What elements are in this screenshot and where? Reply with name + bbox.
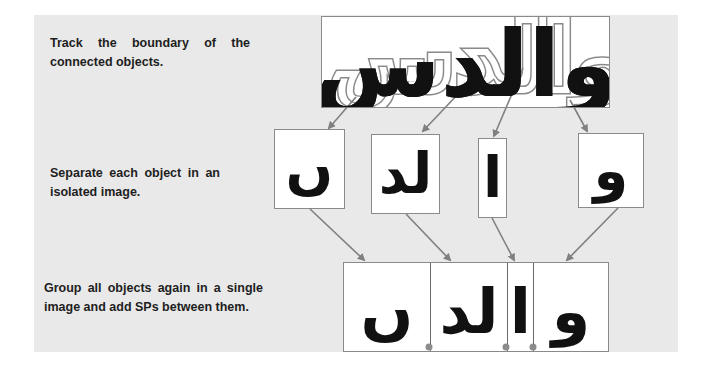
object-glyph: لد: [379, 146, 432, 202]
object-glyph: ا: [483, 150, 502, 206]
step-caption-group: Group all objects again in a single imag…: [44, 279, 263, 317]
segment-lam-dal: لد: [431, 263, 507, 351]
segment-glyph: و: [552, 281, 591, 343]
step-caption-track: Track the boundary of the connected obje…: [50, 34, 250, 72]
segment-seen: ں: [344, 263, 430, 351]
segment-waw: و: [534, 263, 608, 351]
isolated-object-seen: ں: [274, 129, 345, 209]
segment-alif: ا: [508, 263, 533, 351]
segment-glyph: لد: [439, 281, 498, 343]
isolated-object-waw: و: [578, 133, 644, 208]
source-word-glyphs: والدس: [321, 19, 610, 108]
step-caption-separate: Separate each object in an isolated imag…: [50, 164, 220, 202]
segment-glyph: ا: [510, 281, 531, 343]
source-word-image: والدس والدس والدس: [321, 16, 610, 108]
object-glyph: ں: [286, 141, 334, 197]
isolated-object-alif: ا: [478, 138, 507, 218]
object-glyph: و: [594, 143, 629, 199]
segment-glyph: ں: [361, 281, 414, 343]
grouped-image: ں لد ا و: [343, 262, 609, 352]
isolated-object-lam-dal: لد: [371, 134, 440, 214]
